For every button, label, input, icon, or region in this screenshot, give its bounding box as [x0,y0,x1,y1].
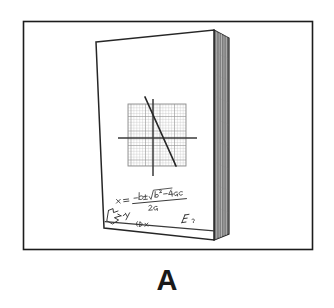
graph-on-cover [118,97,197,176]
book-page-edge [214,30,229,240]
graph-grid [128,104,186,166]
figure-panel: A [0,0,334,308]
book-group [96,30,229,240]
panel-caption-label: A [0,262,334,298]
